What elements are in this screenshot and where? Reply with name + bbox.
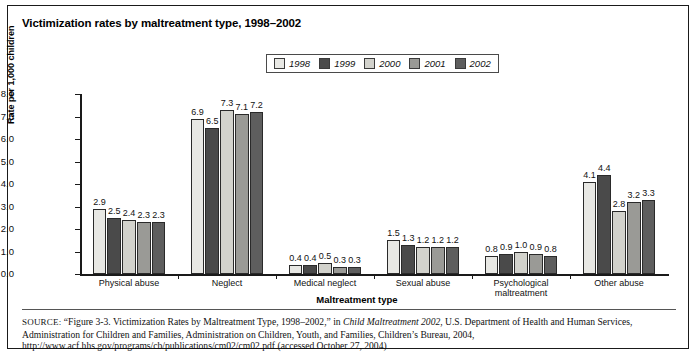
- bar-value-label: 1.2: [442, 236, 464, 245]
- legend-label-1999: 1999: [334, 59, 355, 69]
- legend-label-2001: 2001: [424, 59, 445, 69]
- bar-value-label: 4.4: [593, 164, 615, 173]
- legend-label-2000: 2000: [379, 59, 400, 69]
- y-tick-label-7.0: 7.0: [0, 112, 14, 122]
- category-label-1: Physical abuse: [80, 278, 178, 288]
- x-axis-title: Maltreatment type: [8, 294, 698, 305]
- bar-2002-6[interactable]: [642, 200, 656, 274]
- x-tick-separator-4: [472, 274, 473, 279]
- y-axis-title: Rate per 1,000 children: [6, 25, 16, 124]
- plot-area: 2.92.52.42.32.36.96.57.37.17.20.40.40.50…: [80, 94, 668, 274]
- y-tick-label-1.0: 1.0: [0, 247, 14, 257]
- legend-item-2001[interactable]: 2001: [409, 58, 445, 69]
- x-tick-separator-1: [178, 274, 179, 279]
- bar-value-label: 3.3: [638, 189, 660, 198]
- legend-item-2002[interactable]: 2002: [455, 58, 491, 69]
- bar-2001-4[interactable]: [431, 247, 445, 274]
- chart-legend: 19981999200020012002: [266, 54, 499, 73]
- bar-1998-4[interactable]: [387, 240, 401, 274]
- bar-group-2: 6.96.57.37.17.2: [178, 94, 276, 274]
- source-divider: [22, 309, 676, 310]
- bar-value-label: 2.9: [89, 198, 111, 207]
- legend-item-1998[interactable]: 1998: [274, 58, 310, 69]
- bar-group-5: 0.80.91.00.90.8: [472, 94, 570, 274]
- x-tick-separator-5: [570, 274, 571, 279]
- bar-2001-6[interactable]: [627, 202, 641, 274]
- bar-1998-3[interactable]: [289, 265, 303, 274]
- bar-value-label: 6.9: [187, 108, 209, 117]
- legend-item-2000[interactable]: 2000: [364, 58, 400, 69]
- bar-2002-4[interactable]: [446, 247, 460, 274]
- bar-2001-1[interactable]: [137, 222, 151, 274]
- bar-group-3: 0.40.40.50.30.3: [276, 94, 374, 274]
- bar-value-label: 2.3: [148, 211, 170, 220]
- bar-2000-2[interactable]: [220, 110, 234, 274]
- bar-1998-1[interactable]: [93, 209, 107, 274]
- bar-1999-2[interactable]: [205, 128, 219, 274]
- bar-2001-2[interactable]: [235, 114, 249, 274]
- bar-2002-2[interactable]: [250, 112, 264, 274]
- legend-label-2002: 2002: [470, 59, 491, 69]
- bar-1999-4[interactable]: [401, 245, 415, 274]
- bar-1999-1[interactable]: [107, 218, 121, 274]
- source-text-part1: “Figure 3-3. Victimization Rates by Malt…: [61, 316, 343, 327]
- bar-2001-3[interactable]: [333, 267, 347, 274]
- bar-2002-1[interactable]: [152, 222, 166, 274]
- legend-swatch-2001: [409, 58, 420, 69]
- bar-1998-5[interactable]: [485, 256, 499, 274]
- legend-swatch-2002: [455, 58, 466, 69]
- category-label-4: Sexual abuse: [374, 278, 472, 288]
- y-tick-mark-0.0: [75, 274, 80, 275]
- bar-1999-6[interactable]: [597, 175, 611, 274]
- x-tick-separator-3: [374, 274, 375, 279]
- bar-group-4: 1.51.31.21.21.2: [374, 94, 472, 274]
- legend-swatch-1998: [274, 58, 285, 69]
- y-tick-label-2.0: 2.0: [0, 224, 14, 234]
- bar-2000-1[interactable]: [122, 220, 136, 274]
- y-tick-label-5.0: 5.0: [0, 157, 14, 167]
- bar-1999-5[interactable]: [499, 254, 513, 274]
- category-label-2: Neglect: [178, 278, 276, 288]
- source-label: SOURCE:: [22, 317, 61, 327]
- y-tick-label-6.0: 6.0: [0, 134, 14, 144]
- category-label-6: Other abuse: [570, 278, 668, 288]
- bar-value-label: 7.2: [246, 101, 268, 110]
- y-tick-label-4.0: 4.0: [0, 179, 14, 189]
- bar-2002-5[interactable]: [544, 256, 558, 274]
- bar-1998-2[interactable]: [191, 119, 205, 274]
- bar-value-label: 0.3: [344, 256, 366, 265]
- page-title: Victimization rates by maltreatment type…: [22, 17, 301, 29]
- bar-group-1: 2.92.52.42.32.3: [80, 94, 178, 274]
- legend-label-1998: 1998: [289, 59, 310, 69]
- bar-group-6: 4.14.42.83.23.3: [570, 94, 668, 274]
- figure-frame: Victimization rates by maltreatment type…: [7, 5, 689, 349]
- y-tick-label-8.0: 8.0: [0, 89, 14, 99]
- bar-2002-3[interactable]: [348, 267, 362, 274]
- y-tick-label-0.0: 0.0: [0, 269, 14, 279]
- bar-value-label: 0.8: [540, 245, 562, 254]
- bar-1998-6[interactable]: [583, 182, 597, 274]
- bar-2000-5[interactable]: [514, 252, 528, 275]
- legend-swatch-2000: [364, 58, 375, 69]
- category-label-3: Medical neglect: [276, 278, 374, 288]
- source-note: SOURCE: “Figure 3-3. Victimization Rates…: [22, 316, 682, 352]
- bar-2000-6[interactable]: [612, 211, 626, 274]
- legend-item-1999[interactable]: 1999: [319, 58, 355, 69]
- bar-1999-3[interactable]: [303, 265, 317, 274]
- x-tick-separator-2: [276, 274, 277, 279]
- y-tick-label-3.0: 3.0: [0, 202, 14, 212]
- bar-2000-4[interactable]: [416, 247, 430, 274]
- source-publication-title: Child Maltreatment 2002: [343, 316, 440, 327]
- legend-swatch-1999: [319, 58, 330, 69]
- bar-2001-5[interactable]: [529, 254, 543, 274]
